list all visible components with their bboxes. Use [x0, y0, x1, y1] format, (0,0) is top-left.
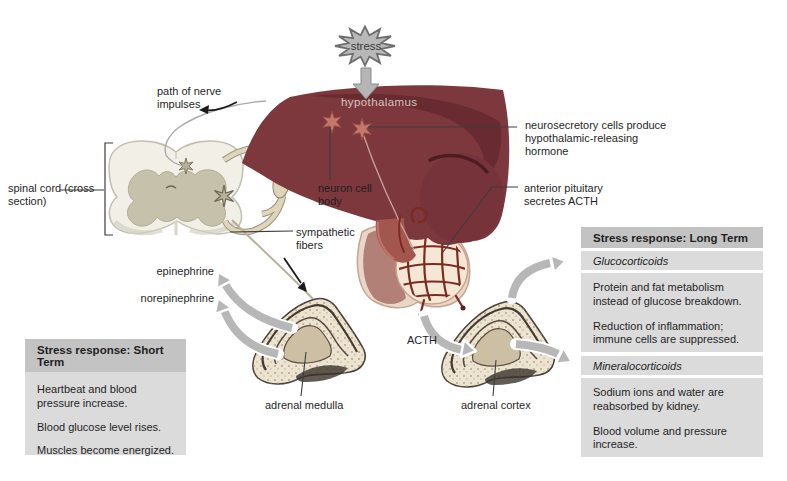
stress-label: stress	[337, 40, 395, 54]
mineralocorticoid-item: Blood volume and pressure increase.	[593, 425, 751, 453]
vessel-end-dot	[461, 306, 466, 311]
glucocorticoids-body: Protein and fat metabolism instead of gl…	[581, 273, 763, 352]
adrenal-medulla-gland-art	[253, 298, 365, 384]
short-term-box: Stress response: Short Term Heartbeat an…	[25, 339, 186, 455]
glucocorticoids-heading: Glucocorticoids	[581, 251, 763, 270]
neuron-cell-body-label: neuron cell body	[318, 182, 378, 208]
long-term-box-title: Stress response: Long Term	[581, 227, 763, 248]
anterior-pituitary-label: anterior pituitary secretes ACTH	[524, 182, 619, 208]
short-term-item: Blood glucose level rises.	[37, 421, 174, 435]
mineralocorticoids-heading: Mineralocorticoids	[581, 356, 763, 375]
adrenal-medulla-label: adrenal medulla	[265, 399, 355, 412]
norepinephrine-label: norepinephrine	[121, 292, 214, 305]
short-term-box-title: Stress response: Short Term	[25, 339, 186, 372]
short-term-item: Muscles become energized.	[37, 444, 174, 458]
glucocorticoid-item: Protein and fat metabolism instead of gl…	[593, 281, 751, 309]
adrenal-cortex-label: adrenal cortex	[461, 399, 551, 412]
mineralocorticoids-body: Sodium ions and water are reabsorbed by …	[581, 378, 763, 457]
stress-response-diagram: stress hypothalamus path of nerve impuls…	[0, 0, 787, 481]
hypothalamus-label: hypothalamus	[341, 96, 417, 110]
neurosecretory-cells-label: neurosecretory cells produce hypothalami…	[525, 119, 680, 159]
mineralocorticoid-item: Sodium ions and water are reabsorbed by …	[593, 386, 751, 414]
fiber-direction-arrow	[284, 258, 307, 292]
glucocorticoid-item: Reduction of inflammation; immune cells …	[593, 320, 751, 348]
spinal-cord-label: spinal cord (cross section)	[8, 182, 96, 208]
acth-label: ACTH	[407, 334, 437, 347]
long-term-box: Stress response: Long Term Glucocorticoi…	[581, 227, 763, 457]
epinephrine-label: epinephrine	[136, 265, 214, 278]
path-of-nerve-impulses-label: path of nerve impulses	[157, 85, 242, 111]
short-term-box-body: Heartbeat and blood pressure increase. B…	[25, 375, 186, 458]
short-term-item: Heartbeat and blood pressure increase.	[37, 383, 174, 411]
sympathetic-fibers-label: sympathetic fibers	[296, 226, 371, 252]
